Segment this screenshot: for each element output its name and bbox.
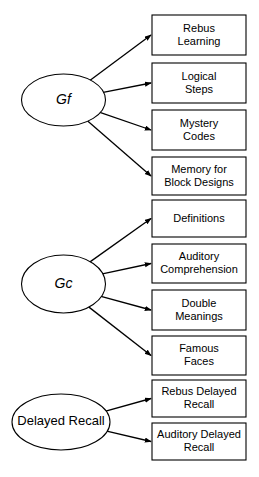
- factor-label-gc-line: Gc: [55, 275, 73, 291]
- nodes-layer: GfRebusLearningLogicalStepsMysteryCodesM…: [12, 15, 246, 460]
- edge-gf-to-mystery-codes: [100, 112, 151, 130]
- indicator-node-double-meanings[interactable]: DoubleMeanings: [152, 290, 246, 330]
- factor-node-delayed-recall[interactable]: Delayed Recall: [12, 394, 110, 450]
- indicator-label-definitions-line: Definitions: [173, 211, 225, 223]
- indicator-node-auditory-comprehension[interactable]: AuditoryComprehension: [152, 244, 246, 283]
- indicator-label-auditory-comprehension-line: Auditory: [179, 250, 220, 262]
- indicator-label-auditory-comprehension-line: Comprehension: [160, 263, 238, 275]
- indicator-label-definitions: Definitions: [173, 211, 225, 223]
- edge-delayed-recall-to-rebus-delayed-recall: [106, 399, 151, 412]
- indicator-label-double-meanings-line: Meanings: [175, 309, 223, 321]
- indicator-label-rebus-learning-line: Rebus: [183, 21, 215, 33]
- indicator-label-mystery-codes: MysteryCodes: [180, 116, 219, 141]
- edge-gf-to-memory-for-block-designs: [88, 121, 151, 176]
- indicator-label-logical-steps: LogicalSteps: [182, 69, 217, 94]
- indicator-label-memory-for-block-designs-line: Block Designs: [164, 175, 234, 187]
- indicator-node-mystery-codes[interactable]: MysteryCodes: [152, 110, 246, 150]
- indicator-label-auditory-delayed-recall-line: Recall: [184, 441, 215, 453]
- indicator-label-rebus-learning-line: Learning: [178, 34, 221, 46]
- indicator-label-rebus-learning: RebusLearning: [178, 21, 221, 46]
- diagram-canvas: GfRebusLearningLogicalStepsMysteryCodesM…: [0, 0, 259, 477]
- indicator-node-rebus-delayed-recall[interactable]: Rebus DelayedRecall: [152, 380, 246, 417]
- factor-label-gf: Gf: [56, 91, 73, 107]
- edge-gc-to-auditory-comprehension: [102, 264, 151, 274]
- indicator-node-memory-for-block-designs[interactable]: Memory forBlock Designs: [152, 157, 246, 195]
- indicator-label-double-meanings: DoubleMeanings: [175, 296, 223, 321]
- indicator-label-mystery-codes-line: Codes: [183, 129, 215, 141]
- indicator-label-famous-faces: FamousFaces: [179, 342, 219, 367]
- edge-delayed-recall-to-auditory-delayed-recall: [107, 431, 151, 441]
- factor-label-gf-line: Gf: [56, 91, 73, 107]
- indicator-label-rebus-delayed-recall-line: Recall: [184, 398, 215, 410]
- edge-gf-to-rebus-learning: [90, 35, 151, 80]
- edge-gc-to-double-meanings: [101, 296, 151, 310]
- indicator-label-logical-steps-line: Steps: [185, 82, 214, 94]
- indicator-label-mystery-codes-line: Mystery: [180, 116, 219, 128]
- indicator-label-famous-faces-line: Faces: [184, 355, 214, 367]
- indicator-label-logical-steps-line: Logical: [182, 69, 217, 81]
- factor-diagram: GfRebusLearningLogicalStepsMysteryCodesM…: [0, 0, 259, 477]
- indicator-node-logical-steps[interactable]: LogicalSteps: [152, 63, 246, 103]
- indicator-node-auditory-delayed-recall[interactable]: Auditory DelayedRecall: [152, 423, 246, 460]
- indicator-label-memory-for-block-designs: Memory forBlock Designs: [164, 162, 234, 187]
- indicator-label-famous-faces-line: Famous: [179, 342, 219, 354]
- indicator-label-rebus-delayed-recall-line: Rebus Delayed: [161, 385, 236, 397]
- edge-gc-to-famous-faces: [89, 307, 151, 356]
- factor-node-gf[interactable]: Gf: [22, 74, 106, 126]
- factor-label-gc: Gc: [55, 275, 73, 291]
- indicator-node-rebus-learning[interactable]: RebusLearning: [152, 15, 246, 55]
- edge-gc-to-definitions: [90, 219, 151, 262]
- edge-gf-to-logical-steps: [103, 83, 151, 92]
- indicator-label-auditory-delayed-recall-line: Auditory Delayed: [157, 428, 241, 440]
- indicator-node-definitions[interactable]: Definitions: [152, 200, 246, 237]
- factor-node-gc[interactable]: Gc: [22, 255, 106, 313]
- indicator-node-famous-faces[interactable]: FamousFaces: [152, 336, 246, 375]
- indicator-label-double-meanings-line: Double: [182, 296, 217, 308]
- factor-label-delayed-recall: Delayed Recall: [17, 413, 105, 428]
- indicator-label-memory-for-block-designs-line: Memory for: [171, 162, 227, 174]
- factor-label-delayed-recall-line: Delayed Recall: [17, 413, 105, 428]
